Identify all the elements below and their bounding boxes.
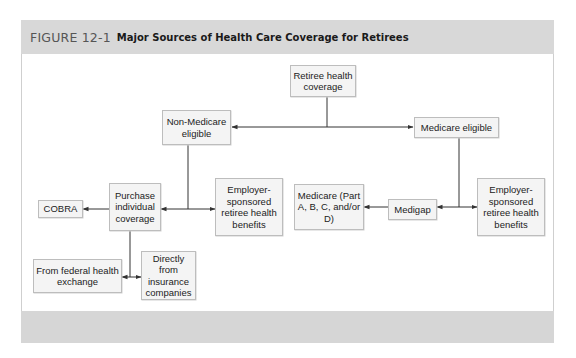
node-label: Employer-sponsored retiree health benefi…: [216, 184, 282, 230]
node-label: From federal health exchange: [34, 265, 121, 288]
node-label: COBRA: [44, 203, 78, 215]
figure-footer-band: [21, 311, 554, 343]
node-cobra: COBRA: [38, 200, 83, 218]
node-label: Non-Medicare eligible: [163, 116, 230, 139]
node-label: Retiree health coverage: [291, 70, 355, 93]
node-employer-sponsored-left: Employer-sponsored retiree health benefi…: [215, 178, 283, 236]
node-employer-sponsored-right: Employer-sponsored retiree health benefi…: [477, 178, 545, 236]
node-medicare-eligible: Medicare eligible: [414, 117, 499, 138]
node-label: Employer-sponsored retiree health benefi…: [478, 184, 544, 230]
node-retiree-health-coverage: Retiree health coverage: [290, 65, 356, 97]
node-label: Directly from insurance companies: [142, 253, 195, 299]
node-label: Medicare (Part A, B, C, and/or D): [295, 190, 363, 225]
node-medicare-parts: Medicare (Part A, B, C, and/or D): [294, 184, 364, 230]
node-federal-health-exchange: From federal health exchange: [33, 259, 122, 293]
node-non-medicare-eligible: Non-Medicare eligible: [162, 110, 231, 145]
node-medigap: Medigap: [388, 199, 437, 220]
node-insurance-companies: Directly from insurance companies: [141, 251, 196, 300]
node-label: Medigap: [394, 204, 430, 216]
node-label: Medicare eligible: [421, 122, 492, 134]
node-label: Purchase individual coverage: [110, 190, 160, 225]
node-purchase-individual-coverage: Purchase individual coverage: [109, 183, 161, 231]
